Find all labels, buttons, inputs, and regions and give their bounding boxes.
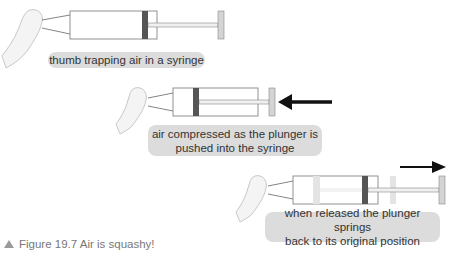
thumb-icon — [116, 88, 146, 134]
plunger-handle — [218, 11, 224, 39]
ghost-plunger-head — [313, 176, 320, 204]
push-arrow-icon — [278, 94, 292, 110]
panel-3-label-line2: back to its original position — [285, 234, 420, 248]
release-arrow-icon — [432, 161, 446, 173]
panel-2-label-line2: pushed into the syringe — [176, 141, 295, 155]
plunger-head — [142, 11, 148, 39]
panel-2-label: air compressed as the plunger is pushed … — [148, 125, 322, 156]
plunger-head — [362, 176, 368, 204]
panel-3-label: when released the plunger springs back t… — [265, 212, 440, 242]
plunger-handle — [269, 88, 275, 116]
panel-2-label-line1: air compressed as the plunger is — [152, 127, 318, 141]
caption-text: Figure 19.7 Air is squashy! — [19, 238, 155, 250]
thumb-icon — [236, 176, 266, 222]
panel-1-label: thumb trapping air in a syringe — [48, 52, 205, 68]
figure-caption: Figure 19.7 Air is squashy! — [4, 238, 155, 250]
triangle-up-icon — [4, 240, 14, 248]
plunger-head — [193, 88, 199, 116]
panel-3-label-line1: when released the plunger springs — [265, 206, 440, 234]
thumb-icon — [2, 10, 42, 68]
panel-1-label-text: thumb trapping air in a syringe — [49, 53, 204, 67]
plunger-handle — [439, 176, 445, 204]
